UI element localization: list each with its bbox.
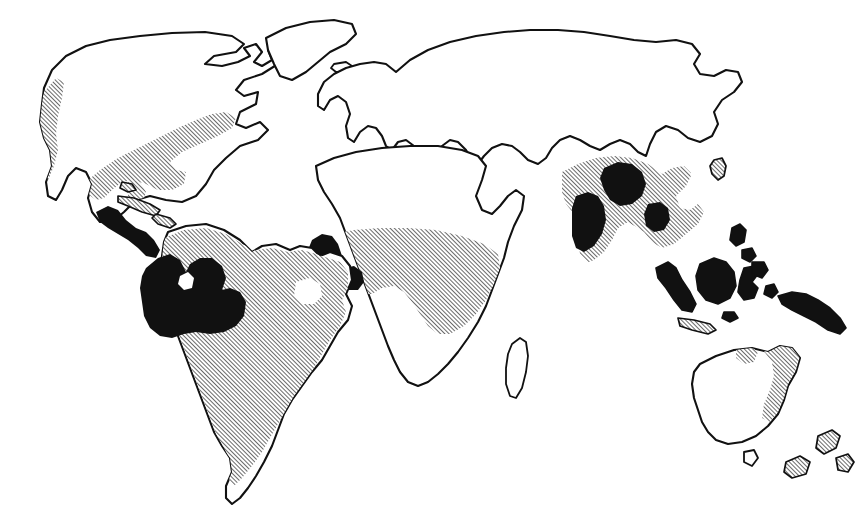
world-map-svg (0, 0, 867, 529)
island-philippines-north (730, 224, 746, 246)
world-distribution-map-figure (0, 0, 867, 529)
